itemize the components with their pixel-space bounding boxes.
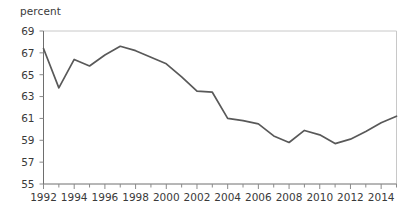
- svg-text:2010: 2010: [306, 191, 333, 203]
- y-axis-tick-labels: 5557596163656769: [21, 25, 34, 190]
- svg-text:57: 57: [21, 156, 34, 168]
- plot-frame: [44, 31, 397, 184]
- svg-text:2006: 2006: [245, 191, 272, 203]
- x-axis-tick-labels: 1992199419961998200020022004200620082010…: [30, 191, 395, 203]
- x-axis-ticks: [44, 184, 397, 189]
- line-chart-plot: 5557596163656769 19921994199619982000200…: [0, 0, 418, 217]
- svg-text:61: 61: [21, 112, 34, 124]
- svg-text:1998: 1998: [122, 191, 149, 203]
- svg-text:65: 65: [21, 69, 34, 81]
- svg-text:2012: 2012: [337, 191, 364, 203]
- y-axis-ticks: [40, 31, 44, 184]
- svg-text:59: 59: [21, 134, 34, 146]
- svg-text:55: 55: [21, 178, 34, 190]
- chart-container: percent 5557596163656769 199219941996199…: [0, 0, 418, 217]
- svg-text:1992: 1992: [30, 191, 57, 203]
- svg-text:2000: 2000: [153, 191, 180, 203]
- svg-text:2014: 2014: [368, 191, 395, 203]
- svg-text:2002: 2002: [184, 191, 211, 203]
- svg-text:63: 63: [21, 90, 34, 102]
- svg-text:69: 69: [21, 25, 34, 37]
- svg-text:1994: 1994: [61, 191, 88, 203]
- svg-text:67: 67: [21, 47, 34, 59]
- svg-text:2004: 2004: [214, 191, 241, 203]
- svg-text:2008: 2008: [276, 191, 303, 203]
- data-series-line: [44, 46, 397, 143]
- svg-text:1996: 1996: [92, 191, 119, 203]
